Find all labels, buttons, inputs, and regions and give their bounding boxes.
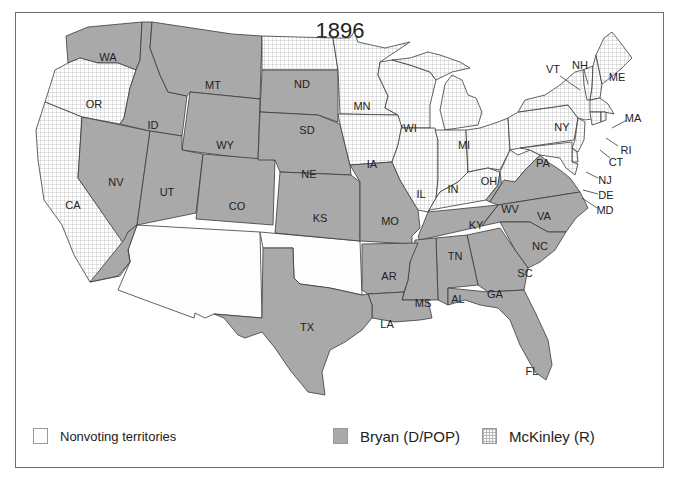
state-nd bbox=[262, 36, 338, 70]
label-ga: GA bbox=[487, 288, 504, 300]
label-nh: NH bbox=[572, 59, 588, 71]
label-nd: ND bbox=[294, 78, 310, 90]
label-nc: NC bbox=[532, 240, 548, 252]
label-mn: MN bbox=[353, 100, 370, 112]
label-mi: MI bbox=[458, 139, 470, 151]
label-nv: NV bbox=[108, 176, 124, 188]
label-oh: OH bbox=[481, 175, 498, 187]
state-ks bbox=[275, 172, 360, 241]
label-tx: TX bbox=[300, 321, 315, 333]
label-in: IN bbox=[448, 183, 459, 195]
label-co: CO bbox=[229, 200, 246, 212]
state-ri bbox=[601, 112, 606, 122]
label-al: AL bbox=[451, 293, 464, 305]
label-or: OR bbox=[86, 98, 103, 110]
legend-item-bryan: Bryan (D/POP) bbox=[333, 426, 460, 446]
label-fl: FL bbox=[526, 365, 539, 377]
label-sd: SD bbox=[299, 124, 314, 136]
label-ny: NY bbox=[554, 121, 570, 133]
label-mo: MO bbox=[381, 215, 399, 227]
label-ks: KS bbox=[313, 212, 328, 224]
state-ct bbox=[590, 112, 601, 125]
label-sc: SC bbox=[517, 267, 532, 279]
label-me: ME bbox=[609, 71, 626, 83]
territory-az-nm bbox=[118, 225, 262, 318]
label-mt: MT bbox=[205, 79, 221, 91]
bryan-swatch bbox=[333, 428, 348, 444]
label-vt: VT bbox=[546, 63, 560, 75]
us-electoral-map: WA OR CA NV ID MT WY UT CO ND SD NE KS M… bbox=[0, 0, 680, 482]
label-wy: WY bbox=[216, 139, 234, 151]
label-ct: CT bbox=[609, 156, 624, 168]
nonvoting-swatch bbox=[33, 428, 48, 444]
label-ri: RI bbox=[621, 144, 632, 156]
label-tn: TN bbox=[448, 250, 463, 262]
label-nj: NJ bbox=[598, 174, 611, 186]
label-ca: CA bbox=[65, 199, 81, 211]
mckinley-swatch bbox=[482, 428, 497, 444]
label-la: LA bbox=[380, 318, 394, 330]
label-va: VA bbox=[537, 210, 552, 222]
label-wi: WI bbox=[403, 122, 416, 134]
label-ms: MS bbox=[415, 297, 432, 309]
label-wa: WA bbox=[99, 51, 117, 63]
label-id: ID bbox=[148, 119, 159, 131]
label-ne: NE bbox=[301, 168, 316, 180]
state-mi bbox=[440, 75, 482, 130]
legend-label-mckinley: McKinley (R) bbox=[509, 428, 595, 445]
label-wv: WV bbox=[501, 203, 519, 215]
label-md: MD bbox=[596, 204, 613, 216]
legend-item-mckinley: McKinley (R) bbox=[482, 426, 595, 446]
legend-item-nonvoting: Nonvoting territories bbox=[33, 426, 176, 446]
label-ia: IA bbox=[367, 158, 378, 170]
label-de: DE bbox=[598, 189, 613, 201]
label-il: IL bbox=[416, 188, 425, 200]
label-ky: KY bbox=[469, 219, 484, 231]
legend-label-bryan: Bryan (D/POP) bbox=[360, 428, 460, 445]
label-pa: PA bbox=[536, 157, 551, 169]
legend-label-nonvoting: Nonvoting territories bbox=[60, 429, 176, 444]
state-co bbox=[196, 154, 275, 225]
label-ar: AR bbox=[381, 270, 396, 282]
label-ma: MA bbox=[625, 112, 642, 124]
label-ut: UT bbox=[160, 186, 175, 198]
